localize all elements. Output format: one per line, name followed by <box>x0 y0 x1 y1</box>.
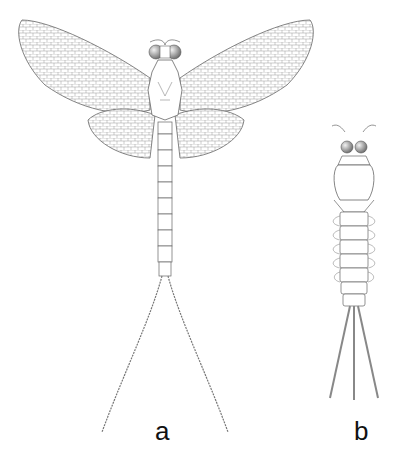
panel-label-b: b <box>354 416 368 447</box>
nymph-abdomen <box>340 212 368 306</box>
mayfly-illustration <box>0 0 405 458</box>
left-hindwing <box>88 109 155 158</box>
right-forewing <box>180 20 313 113</box>
right-hindwing <box>175 109 244 158</box>
right-cercus <box>168 276 228 432</box>
abdomen <box>158 122 172 276</box>
panel-label-a: a <box>155 416 169 447</box>
nymph-thorax <box>334 165 374 200</box>
left-forewing <box>19 20 150 113</box>
nymph <box>330 125 378 400</box>
adult-mayfly <box>19 20 314 432</box>
left-cercus <box>102 276 162 432</box>
thorax <box>148 60 182 120</box>
